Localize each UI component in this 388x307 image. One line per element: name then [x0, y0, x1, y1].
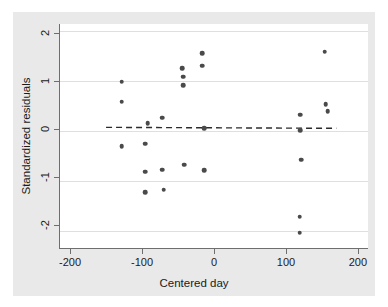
x-tick-label: 100 — [277, 256, 295, 268]
data-point — [120, 100, 125, 105]
data-point — [180, 66, 185, 71]
data-point — [325, 109, 330, 114]
data-point — [202, 168, 207, 173]
data-point — [120, 79, 125, 84]
fit-line — [60, 24, 368, 248]
data-point — [161, 188, 166, 193]
data-point — [202, 126, 207, 131]
data-point — [182, 163, 187, 168]
data-point — [143, 169, 148, 174]
data-point — [143, 190, 148, 195]
y-tick — [54, 33, 59, 34]
gridline-y1 — [60, 81, 368, 82]
plot-area — [60, 24, 368, 248]
x-tick — [286, 249, 287, 254]
y-tick — [54, 129, 59, 130]
gridline-y2 — [60, 31, 368, 32]
data-point — [160, 167, 165, 172]
x-tick — [358, 249, 359, 254]
x-axis-label: Centered day — [159, 277, 228, 289]
data-point — [323, 102, 328, 107]
gridline-ym1 — [60, 181, 368, 182]
y-tick-label: 2 — [39, 30, 51, 36]
gridline-ym2 — [60, 231, 368, 232]
y-tick-label: -1 — [39, 172, 51, 182]
data-point — [200, 51, 205, 56]
data-point — [143, 141, 148, 146]
x-tick-label: -100 — [131, 256, 153, 268]
y-tick — [54, 177, 59, 178]
scatter-plot-figure: 210-1-2 -200-1000100200 Standardized res… — [0, 0, 388, 307]
data-point — [200, 64, 205, 69]
x-tick — [214, 249, 215, 254]
x-tick-label: -200 — [59, 256, 81, 268]
data-point — [120, 144, 125, 149]
data-point — [181, 83, 186, 88]
y-tick-label: 1 — [39, 78, 51, 84]
x-tick — [70, 249, 71, 254]
y-tick — [54, 225, 59, 226]
data-point — [181, 75, 186, 80]
x-tick-label: 0 — [211, 256, 217, 268]
data-point — [160, 115, 165, 120]
x-tick-label: 200 — [349, 256, 367, 268]
y-tick-label: 0 — [39, 126, 51, 132]
data-point — [297, 230, 302, 235]
y-axis-label: Standardized residuals — [20, 78, 32, 195]
data-point — [298, 113, 303, 118]
x-tick — [142, 249, 143, 254]
data-point — [299, 157, 304, 162]
data-point — [298, 128, 303, 133]
data-point — [297, 214, 302, 219]
data-point — [145, 121, 150, 126]
y-tick-label: -2 — [39, 220, 51, 230]
y-axis-line — [59, 24, 60, 249]
data-point — [323, 50, 328, 55]
y-tick — [54, 81, 59, 82]
gridline-y0 — [60, 131, 368, 132]
